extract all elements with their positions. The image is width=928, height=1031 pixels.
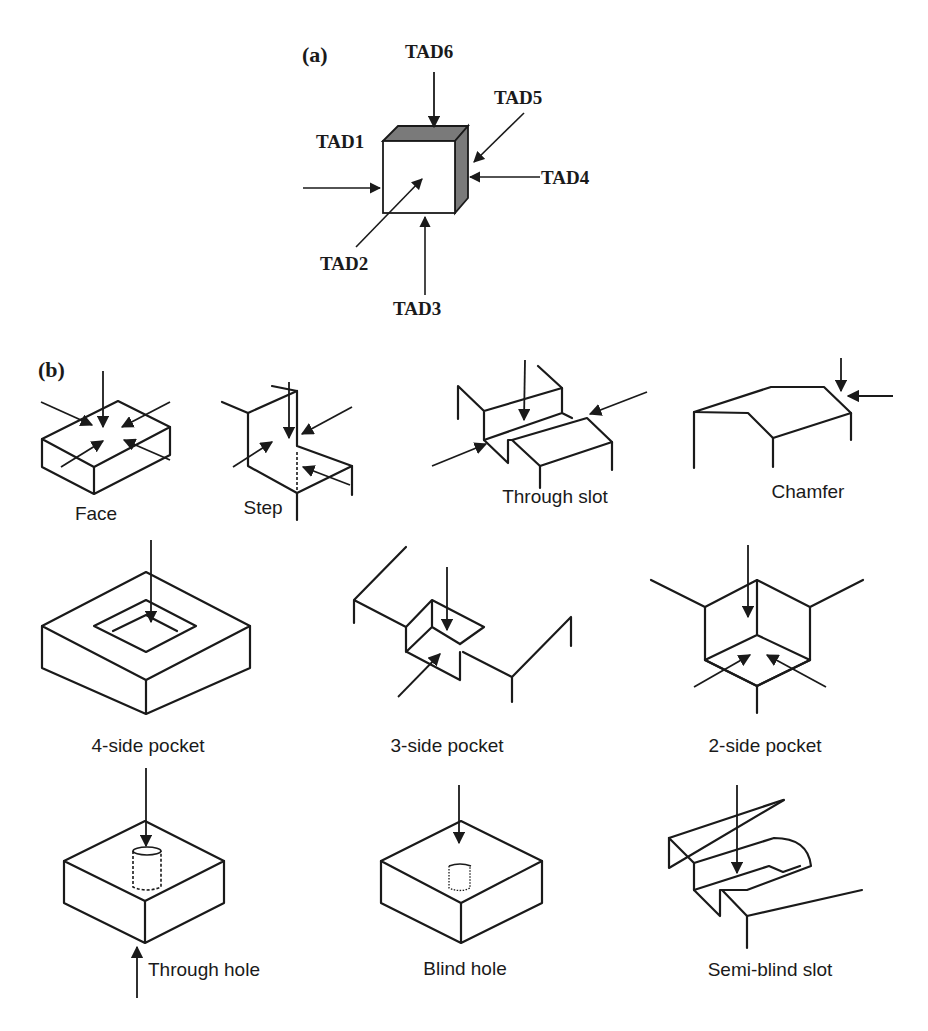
blind-hole-top — [381, 821, 542, 903]
two-side-pocket-arrow-left — [694, 655, 750, 687]
four-side-pocket-top — [42, 572, 250, 680]
step-label: Step — [243, 497, 282, 518]
four-side-pocket-label: 4-side pocket — [91, 735, 205, 756]
cube-front-face — [383, 141, 455, 213]
feature-step: Step — [222, 382, 352, 520]
face-arrow-left — [41, 402, 92, 425]
cube-side-face — [455, 126, 468, 213]
three-side-pocket-arrow-front — [398, 654, 440, 697]
three-side-pocket-label: 3-side pocket — [390, 735, 504, 756]
tad6-label: TAD6 — [405, 41, 453, 62]
feature-through-slot: Through slot — [432, 360, 647, 507]
face-arrow-front-left — [61, 441, 103, 467]
tad5-label: TAD5 — [494, 87, 542, 108]
panel-b: (b) Face Step — [38, 357, 893, 998]
tad3-label: TAD3 — [393, 298, 441, 319]
through-slot-body — [458, 366, 612, 466]
semi-blind-slot-slot — [669, 800, 811, 890]
feature-chamfer: Chamfer — [694, 358, 893, 502]
feature-semi-blind-slot: Semi-blind slot — [669, 785, 862, 980]
through-hole-label: Through hole — [148, 959, 260, 980]
face-arrow-front-right — [124, 440, 170, 460]
through-hole-opening — [133, 847, 161, 855]
through-slot-arrow-right — [590, 392, 647, 414]
two-side-pocket-label: 2-side pocket — [708, 735, 822, 756]
through-slot-arrow-top — [524, 360, 525, 420]
panel-a-label: (a) — [302, 42, 328, 67]
through-slot-label: Through slot — [502, 486, 608, 507]
semi-blind-slot-left — [669, 800, 862, 916]
tad1-label: TAD1 — [316, 131, 364, 152]
four-side-pocket-body — [42, 626, 250, 714]
semi-blind-slot-label: Semi-blind slot — [708, 959, 833, 980]
blind-hole-label: Blind hole — [423, 958, 506, 979]
two-side-pocket-bottom — [705, 660, 810, 713]
panel-a: (a) TAD6 TAD5 TAD4 TAD1 TAD2 TAD3 — [302, 41, 590, 319]
blind-hole-hidden-bore — [449, 866, 470, 891]
chamfer-label: Chamfer — [772, 481, 846, 502]
feature-diagram: (a) TAD6 TAD5 TAD4 TAD1 TAD2 TAD3 (b) — [0, 0, 928, 1031]
feature-face: Face — [41, 371, 170, 524]
tad4-label: TAD4 — [541, 167, 590, 188]
step-body — [222, 386, 352, 493]
feature-four-side-pocket: 4-side pocket — [42, 540, 250, 756]
chamfer-top — [694, 387, 851, 438]
tad5-arrow — [474, 113, 524, 162]
face-label: Face — [75, 503, 117, 524]
four-side-pocket-opening — [94, 600, 196, 652]
step-arrow-left — [233, 442, 272, 467]
tad2-label: TAD2 — [320, 253, 368, 274]
feature-three-side-pocket: 3-side pocket — [354, 547, 571, 756]
feature-through-hole: Through hole — [64, 768, 260, 998]
through-hole-top — [64, 821, 224, 901]
two-side-pocket-arrow-right — [767, 655, 826, 687]
feature-blind-hole: Blind hole — [381, 785, 542, 979]
panel-b-label: (b) — [38, 357, 65, 382]
cube-top-face — [383, 126, 468, 141]
feature-two-side-pocket: 2-side pocket — [651, 545, 863, 756]
blind-hole-opening — [449, 864, 471, 866]
through-hole-hidden-bore — [133, 851, 161, 890]
through-slot-arrow-left — [432, 444, 486, 466]
step-arrow-right — [302, 407, 352, 434]
tad-cube — [383, 126, 468, 213]
through-slot-edges — [484, 388, 612, 488]
three-side-pocket-body — [354, 547, 484, 680]
